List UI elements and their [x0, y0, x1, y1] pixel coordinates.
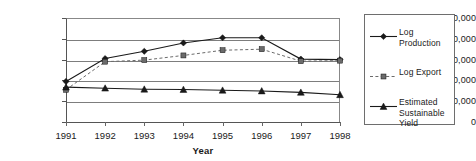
data-point [259, 47, 264, 52]
data-point [180, 40, 186, 46]
legend-entry[interactable]: Log Export [369, 67, 453, 79]
legend-entry[interactable]: Estimated Sustainable Yield [369, 97, 453, 129]
x-tick-label: 1991 [46, 131, 86, 141]
x-tick-mark [144, 122, 145, 126]
x-tick-label: 1998 [320, 131, 360, 141]
x-tick-label: 1992 [85, 131, 125, 141]
data-point [220, 48, 225, 53]
x-tick-mark [301, 122, 302, 126]
x-tick-mark [183, 122, 184, 126]
legend-label: Log Export [399, 67, 441, 78]
legend-swatch-diamond-icon [369, 28, 398, 39]
series-layer [66, 18, 340, 122]
data-point [259, 35, 265, 41]
x-axis-title: Year [66, 145, 340, 156]
data-point [103, 59, 108, 64]
data-point [142, 58, 147, 63]
data-point [381, 74, 386, 79]
chart-legend: Log ProductionLog ExportEstimated Sustai… [364, 14, 455, 125]
series-line [66, 49, 340, 90]
x-tick-label: 1993 [124, 131, 164, 141]
x-axis-line [66, 122, 340, 123]
legend-swatch-triangle-icon [369, 98, 398, 109]
x-tick-label: 1994 [163, 131, 203, 141]
x-tick-label: 1995 [203, 131, 243, 141]
x-tick-label: 1996 [242, 131, 282, 141]
data-point [298, 59, 303, 64]
x-tick-mark [223, 122, 224, 126]
x-tick-mark [340, 122, 341, 126]
legend-swatch-square-icon [369, 68, 398, 79]
legend-label: Log Production [399, 27, 453, 48]
x-tick-mark [105, 122, 106, 126]
x-tick-mark [262, 122, 263, 126]
data-point [380, 33, 386, 39]
data-point [219, 35, 225, 41]
data-point [181, 53, 186, 58]
x-tick-label: 1997 [281, 131, 321, 141]
series-3 [63, 84, 344, 98]
legend-label: Estimated Sustainable Yield [399, 97, 453, 129]
data-point [338, 58, 343, 63]
data-point [141, 48, 147, 54]
log-production-chart: 0200,000400,000600,000800,0001,000,000 1… [0, 0, 476, 161]
x-tick-mark [66, 122, 67, 126]
legend-entry[interactable]: Log Production [369, 27, 453, 48]
